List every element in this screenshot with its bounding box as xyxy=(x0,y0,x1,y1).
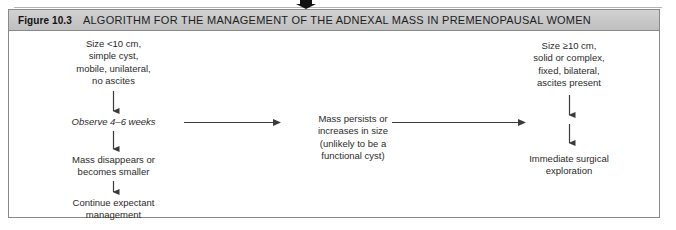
figure-frame: Figure 10.3 ALGORITHM FOR THE MANAGEMENT… xyxy=(8,9,660,218)
node-mass-persists: Mass persists or increases in size (unli… xyxy=(287,113,419,163)
node-mass-resolves: Mass disappears or becomes smaller xyxy=(26,154,201,179)
figure-caption: ALGORITHM FOR THE MANAGEMENT OF THE ADNE… xyxy=(83,14,591,26)
algorithm-flowchart: Size <10 cm, simple cyst, mobile, unilat… xyxy=(9,31,659,217)
node-criteria-benign: Size <10 cm, simple cyst, mobile, unilat… xyxy=(26,38,201,88)
figure-title-bar: Figure 10.3 ALGORITHM FOR THE MANAGEMENT… xyxy=(9,10,659,31)
node-criteria-malignant: Size ≥10 cm, solid or complex, fixed, bi… xyxy=(479,40,659,90)
node-immediate-surgery: Immediate surgical exploration xyxy=(479,153,659,178)
node-observe: Observe 4–6 weeks xyxy=(26,116,201,128)
node-continue-expectant: Continue expectant management xyxy=(26,197,201,222)
page-scan-arrow-artifact xyxy=(0,0,676,9)
figure-number: Figure 10.3 xyxy=(18,15,72,26)
